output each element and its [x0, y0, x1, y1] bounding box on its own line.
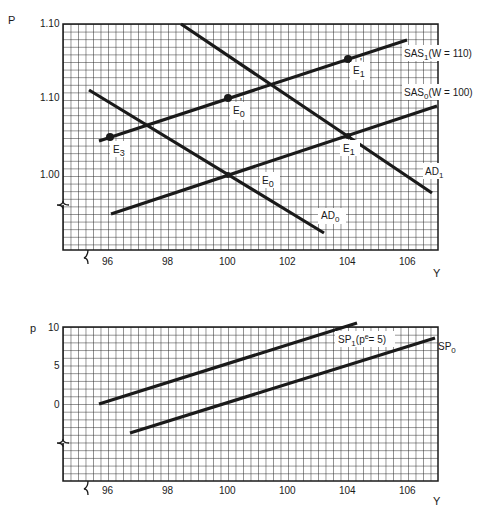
- top-x-tick-4: 104: [339, 256, 356, 267]
- bottom-y-tick-0: 10: [48, 322, 60, 333]
- top-x-axis-break: [84, 250, 88, 264]
- e0-prime-marker: [224, 94, 232, 102]
- top-y-tick-0: 1.10: [40, 18, 60, 29]
- e1-marker: [345, 133, 351, 139]
- bottom-x-axis-label: Y: [433, 495, 441, 507]
- bottom-x-tick-2: 100: [219, 485, 236, 496]
- top-y-tick-2: 1.00: [40, 169, 60, 180]
- top-x-tick-3: 102: [279, 256, 296, 267]
- top-x-axis-label: Y: [433, 267, 441, 279]
- bottom-x-axis-break: [84, 481, 88, 495]
- e0-prime-tick: ': [240, 97, 242, 108]
- bottom-x-tick-3: 100: [279, 485, 296, 496]
- top-y-axis-label: P: [8, 14, 15, 26]
- top-chart: P 1.10 1.10 1.00 96 98 100 102 104 106 Y…: [8, 14, 492, 279]
- sp0-legend: SP0: [438, 341, 456, 355]
- e1-prime-tick: ': [360, 57, 362, 68]
- bottom-chart: p 10 5 0 96 98 100 100 104 106 Y SP1(pe=…: [30, 322, 456, 507]
- top-x-tick-5: 106: [399, 256, 416, 267]
- bottom-y-axis-label: p: [30, 322, 36, 334]
- bottom-x-tick-0: 96: [102, 485, 114, 496]
- top-y-tick-1: 1.10: [40, 92, 60, 103]
- figure: P 1.10 1.10 1.00 96 98 100 102 104 106 Y…: [0, 0, 492, 519]
- bottom-x-tick-5: 106: [399, 485, 416, 496]
- bottom-grid: [63, 327, 438, 481]
- bottom-y-tick-2: 0: [54, 399, 60, 410]
- top-x-tick-2: 100: [219, 256, 236, 267]
- top-grid: [63, 24, 438, 250]
- bottom-x-tick-4: 104: [339, 485, 356, 496]
- bottom-y-tick-1: 5: [54, 360, 60, 371]
- e3-marker: [106, 133, 114, 141]
- e1-prime-marker: [344, 55, 352, 63]
- top-x-tick-1: 98: [162, 256, 174, 267]
- bottom-x-tick-1: 98: [162, 485, 174, 496]
- top-x-tick-0: 96: [102, 256, 114, 267]
- e0-marker: [225, 172, 231, 178]
